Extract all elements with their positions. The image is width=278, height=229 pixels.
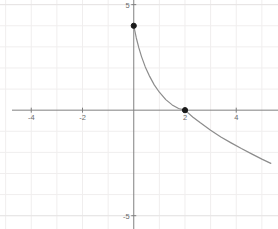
x-tick-label: -4 xyxy=(28,113,35,122)
plot-canvas: -4-2245-5 xyxy=(0,0,278,229)
data-point-y-intercept xyxy=(131,23,136,28)
data-point-x-intercept xyxy=(182,108,187,113)
x-tick-label: 2 xyxy=(183,113,187,122)
x-tick-label: -2 xyxy=(79,113,86,122)
y-tick-label: 5 xyxy=(126,1,130,10)
x-tick-label: 4 xyxy=(234,113,238,122)
function-plot: -4-2245-5 xyxy=(0,0,278,229)
y-tick-label: -5 xyxy=(123,212,130,221)
